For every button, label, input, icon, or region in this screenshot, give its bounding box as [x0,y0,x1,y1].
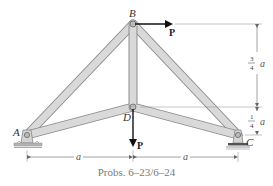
joint-label-C: C [246,136,254,148]
joint-label-D: D [122,111,131,123]
figure-caption: Probs. 6–23/6–24 [0,166,273,178]
svg-text:4: 4 [250,64,254,72]
dim-label-right-span: a [183,151,188,162]
truss-diagram: B D A C P P 3 4 a 1 4 a a a [0,0,273,186]
svg-text:4: 4 [250,122,254,130]
load-label-D: P [137,140,143,151]
svg-text:a: a [260,116,265,127]
joint-label-A: A [12,126,20,138]
dim-label-upper-height: 3 4 a [246,52,270,74]
joint-label-B: B [129,7,136,19]
dim-label-left-span: a [76,151,81,162]
horizontal-dimension-lines [27,150,238,162]
dim-label-lower-height: 1 4 a [246,111,270,131]
svg-text:a: a [260,58,265,69]
svg-text:3: 3 [250,55,254,63]
svg-text:1: 1 [250,113,254,121]
load-label-B: P [169,27,175,38]
